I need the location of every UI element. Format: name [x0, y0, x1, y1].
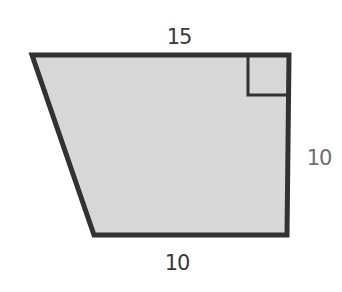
top-side-label: 15 [167, 25, 192, 49]
trapezoid-shape [32, 55, 289, 235]
bottom-side-label: 10 [165, 251, 190, 275]
right-side-label: 10 [307, 146, 332, 170]
trapezoid-diagram: 15 10 10 [0, 0, 342, 292]
